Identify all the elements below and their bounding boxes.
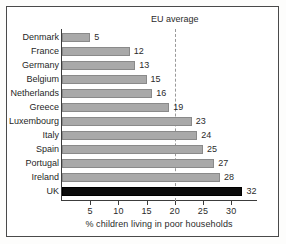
- bar-value-label: 5: [94, 32, 99, 42]
- x-axis-tick-label: 25: [188, 206, 218, 216]
- bar-value-label: 32: [246, 186, 256, 196]
- category-label: Greece: [0, 102, 62, 112]
- category-label: Belgium: [0, 74, 62, 84]
- bar: [62, 117, 192, 126]
- bar-row: Netherlands16: [0, 87, 286, 101]
- bar-row: Ireland28: [0, 171, 286, 185]
- bar: [62, 187, 242, 196]
- x-axis-tick-label: 5: [75, 206, 105, 216]
- x-axis-tick-label: 15: [132, 206, 162, 216]
- bar: [62, 131, 197, 140]
- category-label: Spain: [0, 144, 62, 154]
- bar-row: Belgium15: [0, 73, 286, 87]
- category-label: Luxembourg: [0, 116, 62, 126]
- eu-average-label: EU average: [134, 14, 216, 24]
- x-axis-tick-label: 30: [216, 206, 246, 216]
- bar: [62, 75, 147, 84]
- bar-value-label: 25: [207, 144, 217, 154]
- bar-value-label: 27: [218, 158, 228, 168]
- bar-row: Portugal27: [0, 157, 286, 171]
- bar-row: Italy24: [0, 129, 286, 143]
- category-label: Netherlands: [0, 88, 62, 98]
- bar: [62, 145, 203, 154]
- x-axis-tick: [231, 201, 232, 205]
- bar-value-label: 19: [173, 102, 183, 112]
- category-label: Italy: [0, 130, 62, 140]
- bar-value-label: 24: [201, 130, 211, 140]
- x-axis-title: % children living in poor households: [61, 219, 257, 229]
- x-axis-tick: [90, 201, 91, 205]
- bar: [62, 47, 130, 56]
- bar-value-label: 23: [196, 116, 206, 126]
- bar-value-label: 28: [224, 172, 234, 182]
- category-label: Portugal: [0, 158, 62, 168]
- bar-value-label: 15: [151, 74, 161, 84]
- bar-row: Germany13: [0, 59, 286, 73]
- bar-row: UK32: [0, 185, 286, 199]
- category-label: UK: [0, 186, 62, 196]
- x-axis-tick: [203, 201, 204, 205]
- bar-value-label: 12: [134, 46, 144, 56]
- bar: [62, 159, 214, 168]
- bar: [62, 89, 152, 98]
- x-axis-tick-label: 20: [160, 206, 190, 216]
- bar-row: Luxembourg23: [0, 115, 286, 129]
- bar-row: Greece19: [0, 101, 286, 115]
- x-axis-tick: [147, 201, 148, 205]
- bar: [62, 173, 220, 182]
- bar: [62, 33, 90, 42]
- x-axis-tick: [175, 201, 176, 205]
- chart-figure: EU average Denmark5France12Germany13Belg…: [0, 0, 286, 244]
- category-label: France: [0, 46, 62, 56]
- bar: [62, 103, 169, 112]
- bar-value-label: 16: [156, 88, 166, 98]
- plot-area: EU average Denmark5France12Germany13Belg…: [0, 0, 286, 244]
- category-label: Ireland: [0, 172, 62, 182]
- category-label: Denmark: [0, 32, 62, 42]
- bar-value-label: 13: [139, 60, 149, 70]
- bar-row: Denmark5: [0, 31, 286, 45]
- category-label: Germany: [0, 60, 62, 70]
- bar: [62, 61, 135, 70]
- bar-row: Spain25: [0, 143, 286, 157]
- x-axis-tick: [118, 201, 119, 205]
- x-axis-tick-label: 10: [103, 206, 133, 216]
- bar-row: France12: [0, 45, 286, 59]
